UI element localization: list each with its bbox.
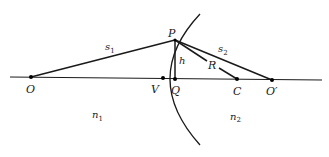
point-V: [161, 76, 165, 80]
refraction-diagram: O V Q C O′ P s1 s2 h R n1 n2: [0, 0, 329, 157]
radius-line-lower: [219, 68, 237, 79]
label-C: C: [233, 85, 242, 98]
label-R: R: [207, 59, 216, 72]
ray-s2: [175, 40, 272, 80]
label-n1: n1: [92, 109, 103, 123]
label-n2: n2: [230, 111, 241, 124]
label-s1: s1: [105, 41, 115, 55]
point-Oprime: [270, 78, 274, 82]
label-Q: Q: [171, 84, 180, 97]
point-O: [29, 75, 33, 79]
label-s2: s2: [218, 43, 228, 57]
optical-axis: [10, 77, 322, 80]
label-h: h: [179, 55, 185, 66]
point-Q: [173, 77, 177, 81]
label-P: P: [167, 27, 176, 40]
label-V: V: [151, 83, 160, 96]
ray-s1: [31, 40, 175, 77]
label-O: O: [26, 83, 35, 96]
point-C: [235, 77, 239, 81]
label-Oprime: O′: [266, 85, 278, 98]
